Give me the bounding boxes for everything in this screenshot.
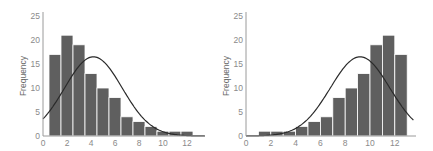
x-tick-label: 8 [343, 138, 348, 148]
x-tick-label: 4 [293, 138, 298, 148]
histogram-bar [97, 88, 109, 136]
y-tick-label: 20 [234, 35, 244, 45]
y-tick-label: 5 [35, 107, 40, 117]
histogram-bar [370, 45, 382, 136]
y-axis-label: Frequency [221, 55, 231, 96]
x-tick-label: 0 [41, 138, 46, 148]
histogram-bar [320, 117, 332, 136]
histogram-bar [333, 98, 345, 136]
histogram-bar [345, 88, 357, 136]
y-tick-label: 15 [31, 59, 41, 69]
x-tick-label: 10 [158, 138, 168, 148]
x-tick-label: 4 [89, 138, 94, 148]
x-tick-label: 10 [365, 138, 375, 148]
x-tick-label: 2 [268, 138, 273, 148]
x-tick-label: 0 [244, 138, 249, 148]
y-tick-label: 15 [234, 59, 244, 69]
y-tick-label: 20 [31, 35, 41, 45]
histogram-bar [358, 74, 370, 136]
y-tick-label: 0 [35, 131, 40, 141]
histogram-left-skewed: 0510152025024681012Frequency [216, 0, 433, 151]
histogram-bar [73, 45, 85, 136]
histogram-bar [109, 98, 121, 136]
histogram-bar [395, 54, 407, 136]
y-tick-label: 0 [238, 131, 243, 141]
histogram-bar [49, 54, 61, 136]
histogram-bar [85, 74, 97, 136]
x-tick-label: 8 [137, 138, 142, 148]
histogram-bar [61, 35, 73, 136]
x-tick-label: 6 [113, 138, 118, 148]
x-tick-label: 12 [182, 138, 192, 148]
x-tick-label: 12 [390, 138, 400, 148]
histogram-bar [308, 122, 320, 136]
histogram-bar [133, 122, 145, 136]
x-tick-label: 6 [318, 138, 323, 148]
histogram-bar [121, 117, 133, 136]
y-tick-label: 10 [234, 83, 244, 93]
y-tick-label: 25 [234, 11, 244, 21]
histogram-right-skewed: 0510152025024681012Frequency [0, 0, 216, 151]
y-tick-label: 25 [31, 11, 41, 21]
x-tick-label: 2 [65, 138, 70, 148]
y-tick-label: 5 [238, 107, 243, 117]
y-axis-label: Frequency [18, 55, 28, 96]
y-tick-label: 10 [31, 83, 41, 93]
